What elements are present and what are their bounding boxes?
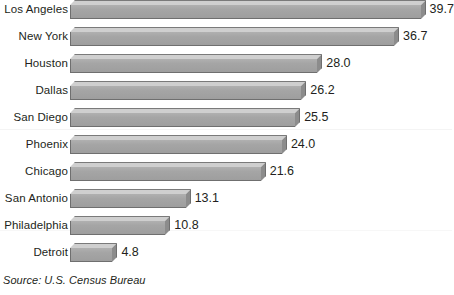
bar-row: Chicago21.6: [0, 158, 452, 185]
bar-side-face: [301, 81, 306, 100]
bar-top-face: [70, 216, 170, 221]
bar-top-face: [70, 243, 117, 248]
category-label: Phoenix: [26, 131, 68, 158]
value-label: 28.0: [326, 50, 350, 77]
bar: [70, 135, 282, 154]
value-label: 39.7: [430, 0, 454, 23]
bar-side-face: [186, 189, 191, 208]
bar-front-face: [70, 5, 421, 19]
bar-side-face: [261, 162, 266, 181]
bar-top-face: [70, 162, 266, 167]
bar-front-face: [70, 113, 295, 127]
bar: [70, 0, 421, 19]
category-label: Chicago: [25, 158, 68, 185]
value-label: 26.2: [310, 77, 334, 104]
bar: [70, 162, 261, 181]
category-label: Detroit: [33, 239, 68, 266]
value-label: 4.8: [121, 239, 138, 266]
bar-front-face: [70, 194, 186, 208]
value-label: 21.6: [270, 158, 294, 185]
bar: [70, 189, 186, 208]
bar: [70, 81, 301, 100]
bar-row: Detroit4.8: [0, 239, 452, 266]
bar-top-face: [70, 54, 322, 59]
bar-row: San Diego25.5: [0, 104, 452, 131]
bar-row: Phoenix24.0: [0, 131, 452, 158]
value-label: 36.7: [403, 23, 427, 50]
bar-row: New York36.7: [0, 23, 452, 50]
bar-row: Los Angeles39.7: [0, 0, 452, 23]
bar-side-face: [112, 243, 117, 262]
plot-area: Los Angeles39.7New York36.7Houston28.0Da…: [0, 0, 452, 271]
bar-side-face: [165, 216, 170, 235]
source-note: Source: U.S. Census Bureau: [3, 274, 146, 286]
bar-front-face: [70, 140, 282, 154]
bar-front-face: [70, 32, 394, 46]
bar: [70, 216, 165, 235]
bar-front-face: [70, 59, 317, 73]
category-label: San Diego: [13, 104, 68, 131]
value-label: 24.0: [291, 131, 315, 158]
category-label: New York: [19, 23, 68, 50]
bar-row: Houston28.0: [0, 50, 452, 77]
value-label: 13.1: [195, 185, 219, 212]
bar: [70, 54, 317, 73]
bar-side-face: [394, 27, 399, 46]
value-label: 25.5: [304, 104, 328, 131]
bar: [70, 243, 112, 262]
bar-top-face: [70, 108, 300, 113]
bar-top-face: [70, 189, 191, 194]
bar-top-face: [70, 135, 287, 140]
bar-top-face: [70, 81, 306, 86]
bar-side-face: [282, 135, 287, 154]
bar-side-face: [295, 108, 300, 127]
bar-front-face: [70, 221, 165, 235]
bar-row: Dallas26.2: [0, 77, 452, 104]
category-label: Dallas: [35, 77, 68, 104]
bar-top-face: [70, 27, 399, 32]
bar-row: San Antonio13.1: [0, 185, 452, 212]
bar: [70, 27, 394, 46]
bar: [70, 108, 295, 127]
bar-side-face: [317, 54, 322, 73]
category-label: Los Angeles: [4, 0, 68, 23]
category-label: Houston: [24, 50, 68, 77]
bar-row: Philadelphia10.8: [0, 212, 452, 239]
value-label: 10.8: [174, 212, 198, 239]
bar-front-face: [70, 248, 112, 262]
category-label: San Antonio: [5, 185, 68, 212]
bar-front-face: [70, 86, 301, 100]
bar-front-face: [70, 167, 261, 181]
bar-side-face: [421, 0, 426, 19]
bar-top-face: [70, 0, 426, 5]
category-label: Philadelphia: [4, 212, 68, 239]
